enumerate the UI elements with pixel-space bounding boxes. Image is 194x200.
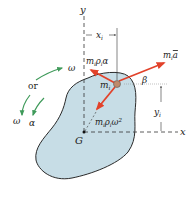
alpha-cw-arrow (33, 98, 44, 115)
tangential-force-label: miρiα (86, 56, 109, 67)
yi-label: yi (153, 107, 161, 118)
omega-ccw-arrow (36, 68, 62, 80)
y-axis-label: y (79, 4, 86, 15)
xi-label: xi (96, 30, 103, 41)
mass-center-label: G (75, 135, 83, 146)
omega-top-label: ω (68, 63, 76, 73)
rigid-body-diagram: y x G xi yi mi miρiα mia miρiω2 β ω or ω… (0, 0, 194, 200)
omega-bottom-label: ω (13, 116, 21, 126)
or-label: or (28, 81, 38, 91)
x-axis-label: x (180, 126, 186, 137)
total-acceleration-label: mia (163, 50, 178, 61)
omega-cw-arrow (22, 95, 30, 115)
particle-mi (114, 81, 121, 88)
angle-beta-label: β (141, 75, 147, 85)
rigid-body-shape (36, 72, 136, 178)
alpha-label: α (29, 118, 35, 128)
normal-force-label: miρiω2 (95, 117, 123, 128)
